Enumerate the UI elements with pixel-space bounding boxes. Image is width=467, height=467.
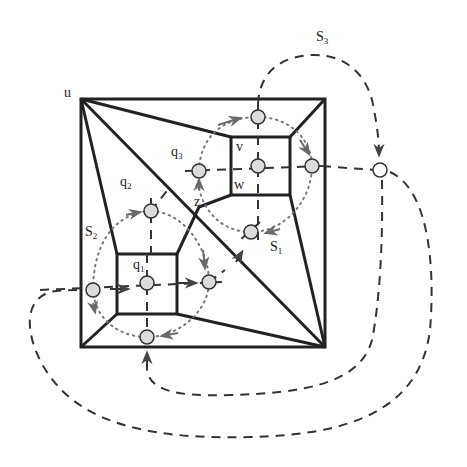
node-q2 [144, 204, 158, 218]
label-q3: q3 [171, 145, 183, 161]
diagram-canvas: u v w z q1 q2 q3 S1 S2 S3 [0, 0, 467, 467]
node-top [251, 110, 265, 124]
label-u: u [64, 86, 71, 100]
node-q3 [192, 164, 206, 178]
node-mid-right [202, 275, 216, 289]
outer-dashed-curves [30, 55, 432, 437]
label-z: z [194, 195, 200, 209]
node-outer-right [373, 163, 387, 177]
label-S1: S1 [270, 240, 282, 256]
edge-lowleft-to-bottomright [177, 314, 325, 347]
edge-bottomleft-corner [81, 314, 117, 347]
node-bottom-mid [244, 225, 258, 239]
edge-u-to-v [81, 99, 231, 137]
label-q2: q2 [120, 175, 132, 191]
dotted-cycles [93, 117, 312, 337]
label-S3: S3 [316, 30, 328, 46]
label-v: v [236, 140, 243, 154]
label-q1: q1 [133, 258, 145, 274]
edge-topright-corner [290, 99, 325, 137]
node-q3-center [251, 159, 265, 173]
node-right-inner [305, 159, 319, 173]
graph-svg [0, 0, 467, 467]
curve-right-outer [30, 172, 432, 437]
node-left [86, 283, 100, 297]
label-w: w [234, 178, 244, 192]
node-q1-center [140, 276, 154, 290]
node-bottom [140, 330, 154, 344]
cycle-arrows [93, 118, 309, 336]
label-S2: S2 [85, 225, 97, 241]
edge-upperright-to-bottomright [290, 195, 325, 347]
